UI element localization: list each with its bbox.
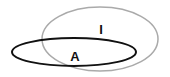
venn-diagram: I A bbox=[0, 0, 170, 77]
set-i-label: I bbox=[99, 22, 103, 37]
set-a-label: A bbox=[70, 49, 80, 64]
